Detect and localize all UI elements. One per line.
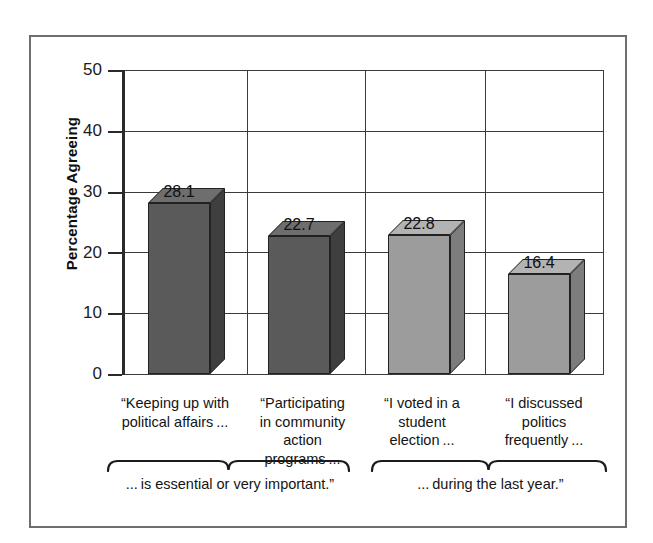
category-label-line: “Participating <box>240 394 365 413</box>
category-label-4: “I discussed politics frequently ... <box>478 394 610 450</box>
bar-value-label: 16.4 <box>508 254 570 272</box>
category-label-line: politics <box>478 413 610 432</box>
category-label-line: “I discussed <box>478 394 610 413</box>
gridline-y-40 <box>124 131 604 132</box>
bar-participating-in-community-action-programs[interactable] <box>268 236 330 374</box>
y-tick-50 <box>108 70 122 72</box>
y-tick-20 <box>108 252 122 254</box>
gridline-y-0 <box>124 374 604 375</box>
category-label-3: “I voted in a student election ... <box>358 394 486 450</box>
y-tick-30 <box>108 192 122 194</box>
y-axis-spine <box>122 70 125 375</box>
bar-front-face <box>388 235 450 374</box>
y-tick-10 <box>108 313 122 315</box>
category-label-line: student <box>358 413 486 432</box>
group-brace-left <box>106 458 351 472</box>
group-caption-right: ... during the last year.” <box>370 476 608 492</box>
bar-side-face <box>330 221 345 374</box>
y-tick-40 <box>108 131 122 133</box>
y-tick-label-30: 30 <box>56 183 102 200</box>
y-tick-0 <box>108 374 122 376</box>
bar-i-voted-in-a-student-election[interactable] <box>388 235 450 374</box>
bar-value-label: 22.7 <box>268 216 330 234</box>
bar-front-face <box>148 203 210 374</box>
gridline-x-1 <box>247 70 248 374</box>
bar-front-face <box>508 274 570 374</box>
gridline-x-2 <box>365 70 366 374</box>
category-label-line: political affairs ... <box>105 413 245 432</box>
y-tick-label-40: 40 <box>56 122 102 139</box>
bar-front-face <box>268 236 330 374</box>
category-label-1: “Keeping up with political affairs ... <box>105 394 245 431</box>
category-label-line: in community <box>240 413 365 432</box>
category-label-line: frequently ... <box>478 431 610 450</box>
y-tick-label-0: 0 <box>56 365 102 382</box>
gridline-x-4 <box>603 70 604 374</box>
y-tick-label-10: 10 <box>56 304 102 321</box>
category-label-line: action <box>240 431 365 450</box>
bar-keeping-up-with-political-affairs[interactable] <box>148 203 210 374</box>
category-label-line: election ... <box>358 431 486 450</box>
y-tick-label-20: 20 <box>56 244 102 261</box>
bar-side-face <box>210 188 225 374</box>
category-label-line: “I voted in a <box>358 394 486 413</box>
bar-side-face <box>450 220 465 374</box>
gridline-y-50 <box>124 70 604 71</box>
bar-side-face <box>570 259 585 374</box>
group-brace-right <box>370 458 608 472</box>
bar-value-label: 22.8 <box>388 215 450 233</box>
group-caption-left: ... is essential or very important.” <box>106 476 351 492</box>
category-label-line: “Keeping up with <box>105 394 245 413</box>
bar-i-discussed-politics-frequently[interactable] <box>508 274 570 374</box>
y-tick-label-50: 50 <box>56 61 102 78</box>
gridline-x-3 <box>485 70 486 374</box>
bar-value-label: 28.1 <box>148 183 210 201</box>
